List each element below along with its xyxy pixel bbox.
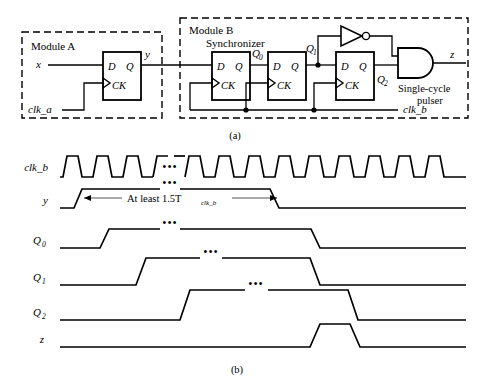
flipflop-b1-d-label: D [216, 61, 225, 72]
signal-label-z: z [449, 48, 455, 60]
module-b-title: Module B [189, 24, 233, 36]
svg-text:1: 1 [42, 277, 46, 286]
flipflop-b1: D Q CK [212, 52, 250, 100]
pulser-label-line1: Single-cycle [398, 83, 451, 94]
svg-text:Q: Q [33, 234, 41, 246]
flipflop-b1-ck-label: CK [221, 80, 236, 91]
ellipsis-clk-b: ••• [162, 160, 178, 174]
signal-label-clk-b: clk_b [403, 103, 427, 115]
svg-text:0: 0 [259, 53, 263, 62]
flipflop-b2-ck-label: CK [277, 80, 292, 91]
module-a-title: Module A [31, 40, 75, 52]
figure-svg: Module A Module B Synchronizer D Q CK x … [0, 0, 487, 384]
inverter-bubble [362, 32, 369, 39]
junction-clk-b-1 [243, 107, 248, 112]
ellipsis-q2: ••• [248, 277, 264, 291]
flipflop-b3-q-label: Q [359, 61, 367, 72]
flipflop-b2-d-label: D [272, 61, 281, 72]
signal-label-y: y [144, 48, 150, 60]
svg-text:0: 0 [42, 240, 46, 249]
timing-label-y: y [42, 194, 48, 206]
timing-label-z: z [39, 333, 45, 345]
and-gate [398, 48, 433, 78]
annotation-subscript: clk_b [201, 199, 217, 207]
signal-label-clk-a: clk_a [28, 103, 52, 115]
flipflop-a-body [103, 52, 141, 100]
svg-text:2: 2 [42, 312, 46, 321]
ellipsis-q0: ••• [162, 216, 178, 230]
flipflop-a-ck-label: CK [112, 80, 127, 91]
flipflop-a-q-label: Q [126, 61, 134, 72]
svg-text:Q: Q [33, 271, 41, 283]
flipflop-b3-body [336, 52, 374, 100]
flipflop-b2-body [268, 52, 306, 100]
caption-b: (b) [231, 364, 244, 376]
signal-label-x: x [35, 58, 41, 70]
timing-label-clk-b: clk_b [24, 161, 48, 173]
junction-clk-b-2 [311, 107, 316, 112]
and-gate-body [398, 48, 433, 78]
svg-text:2: 2 [384, 79, 388, 88]
caption-a: (a) [229, 130, 241, 142]
flipflop-b3-ck-label: CK [345, 80, 360, 91]
flipflop-b2-q-label: Q [291, 61, 299, 72]
flipflop-b3: D Q CK [336, 52, 374, 100]
svg-text:1: 1 [313, 48, 317, 57]
svg-text:Q: Q [33, 306, 41, 318]
flipflop-a-d-label: D [107, 61, 116, 72]
figure-container: Module A Module B Synchronizer D Q CK x … [0, 0, 487, 384]
flipflop-b1-q-label: Q [235, 61, 243, 72]
flipflop-a: D Q CK [103, 52, 141, 100]
flipflop-b2: D Q CK [268, 52, 306, 100]
flipflop-b1-body [212, 52, 250, 100]
ellipsis-y: ••• [162, 176, 178, 190]
annotation-text: At least 1.5T [127, 193, 182, 204]
flipflop-b3-d-label: D [340, 61, 349, 72]
ellipsis-q1: ••• [203, 245, 219, 259]
